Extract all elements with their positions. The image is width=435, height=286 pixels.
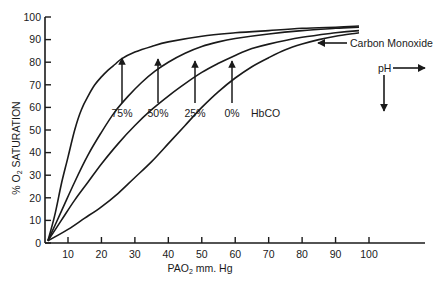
x-tick-label: 30	[129, 248, 141, 260]
hbco-percent-label: 25%	[184, 107, 205, 119]
y-tick-label: 20	[29, 192, 41, 204]
y-tick-label: 50	[29, 124, 41, 136]
oxygen-dissociation-chart: 0102030405060708090100102030405060708090…	[0, 0, 435, 286]
x-tick-label: 50	[196, 248, 208, 260]
y-axis-label: % O2 SATURATION	[10, 101, 23, 194]
curve-0-hbco	[48, 33, 359, 241]
x-axis-label: PAO2 mm. Hg	[168, 262, 233, 275]
x-tick-label: 100	[360, 248, 378, 260]
curves	[48, 26, 359, 241]
y-tick-label: 80	[29, 56, 41, 68]
x-tick-label: 20	[96, 248, 108, 260]
curve-50-hbco	[48, 27, 359, 241]
y-tick-label: 30	[29, 169, 41, 181]
y-tick-label: 40	[29, 146, 41, 158]
ph-label: pH	[378, 62, 391, 74]
carbon-monoxide-label: Carbon Monoxide	[350, 37, 433, 49]
y-tick-label: 90	[29, 33, 41, 45]
x-tick-label: 60	[229, 248, 241, 260]
x-tick-label: 90	[330, 248, 342, 260]
x-tick-label: 40	[162, 248, 174, 260]
axis-ticks: 0102030405060708090100102030405060708090…	[23, 11, 377, 260]
curve-25-hbco	[48, 31, 359, 241]
curve-75-hbco	[48, 26, 359, 241]
y-tick-label: 0	[35, 237, 41, 249]
hbco-percent-label: 50%	[147, 107, 168, 119]
y-tick-label: 60	[29, 101, 41, 113]
annotations: 75%50%25%0%	[111, 58, 239, 119]
x-tick-label: 80	[296, 248, 308, 260]
hbco-label: HbCO	[251, 107, 280, 119]
y-tick-label: 10	[29, 214, 41, 226]
y-tick-label: 70	[29, 79, 41, 91]
hbco-percent-label: 75%	[111, 107, 132, 119]
y-tick-label: 100	[23, 11, 41, 23]
x-tick-label: 10	[62, 248, 74, 260]
hbco-percent-label: 0%	[224, 107, 239, 119]
x-tick-label: 70	[263, 248, 275, 260]
